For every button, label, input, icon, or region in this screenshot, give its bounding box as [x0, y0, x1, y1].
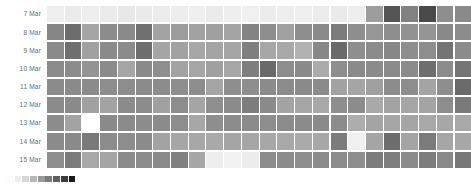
- heatmap-cell[interactable]: [118, 6, 135, 22]
- heatmap-cell[interactable]: [171, 24, 188, 40]
- heatmap-cell[interactable]: [153, 42, 170, 58]
- heatmap-cell[interactable]: [366, 42, 383, 58]
- heatmap-cell[interactable]: [206, 79, 223, 95]
- heatmap-cell[interactable]: [153, 24, 170, 40]
- heatmap-cell[interactable]: [65, 42, 82, 58]
- heatmap-cell[interactable]: [366, 61, 383, 77]
- heatmap-cell[interactable]: [82, 79, 99, 95]
- heatmap-cell[interactable]: [100, 42, 117, 58]
- heatmap-cell[interactable]: [65, 61, 82, 77]
- heatmap-cell[interactable]: [437, 24, 454, 40]
- heatmap-cell[interactable]: [419, 61, 436, 77]
- heatmap-cell[interactable]: [189, 152, 206, 168]
- heatmap-cell[interactable]: [260, 97, 277, 113]
- heatmap-cell[interactable]: [224, 24, 241, 40]
- heatmap-cell[interactable]: [171, 79, 188, 95]
- heatmap-cell[interactable]: [331, 152, 348, 168]
- heatmap-cell[interactable]: [171, 6, 188, 22]
- heatmap-cell[interactable]: [366, 152, 383, 168]
- heatmap-cell[interactable]: [65, 6, 82, 22]
- heatmap-cell[interactable]: [401, 152, 418, 168]
- heatmap-cell[interactable]: [136, 6, 153, 22]
- heatmap-cell[interactable]: [224, 61, 241, 77]
- heatmap-cell[interactable]: [348, 61, 365, 77]
- heatmap-cell[interactable]: [401, 61, 418, 77]
- heatmap-cell[interactable]: [153, 133, 170, 149]
- heatmap-cell[interactable]: [455, 24, 471, 40]
- heatmap-cell[interactable]: [189, 61, 206, 77]
- heatmap-cell[interactable]: [277, 61, 294, 77]
- heatmap-cell[interactable]: [277, 6, 294, 22]
- heatmap-cell[interactable]: [242, 6, 259, 22]
- heatmap-cell[interactable]: [331, 24, 348, 40]
- heatmap-cell[interactable]: [419, 152, 436, 168]
- heatmap-cell[interactable]: [189, 97, 206, 113]
- heatmap-cell[interactable]: [384, 133, 401, 149]
- heatmap-cell[interactable]: [277, 97, 294, 113]
- heatmap-cell[interactable]: [277, 115, 294, 131]
- heatmap-cell[interactable]: [100, 133, 117, 149]
- heatmap-cell[interactable]: [118, 24, 135, 40]
- heatmap-cell[interactable]: [242, 61, 259, 77]
- heatmap-cell[interactable]: [331, 42, 348, 58]
- heatmap-cell[interactable]: [366, 24, 383, 40]
- heatmap-cell[interactable]: [455, 152, 471, 168]
- heatmap-cell[interactable]: [419, 115, 436, 131]
- heatmap-cell[interactable]: [401, 97, 418, 113]
- heatmap-cell[interactable]: [100, 79, 117, 95]
- heatmap-cell[interactable]: [82, 42, 99, 58]
- heatmap-cell[interactable]: [47, 115, 64, 131]
- heatmap-cell[interactable]: [277, 152, 294, 168]
- heatmap-cell[interactable]: [82, 97, 99, 113]
- heatmap-cell[interactable]: [260, 61, 277, 77]
- heatmap-cell[interactable]: [455, 133, 471, 149]
- heatmap-cell[interactable]: [295, 115, 312, 131]
- heatmap-cell[interactable]: [455, 79, 471, 95]
- heatmap-cell[interactable]: [401, 79, 418, 95]
- heatmap-cell[interactable]: [401, 42, 418, 58]
- heatmap-cell[interactable]: [277, 42, 294, 58]
- heatmap-cell[interactable]: [206, 42, 223, 58]
- heatmap-cell[interactable]: [100, 6, 117, 22]
- heatmap-cell[interactable]: [419, 97, 436, 113]
- heatmap-cell[interactable]: [65, 152, 82, 168]
- heatmap-cell[interactable]: [384, 24, 401, 40]
- heatmap-cell[interactable]: [260, 115, 277, 131]
- heatmap-cell[interactable]: [136, 61, 153, 77]
- heatmap-cell[interactable]: [100, 61, 117, 77]
- heatmap-cell[interactable]: [295, 97, 312, 113]
- heatmap-cell[interactable]: [224, 115, 241, 131]
- heatmap-cell[interactable]: [331, 6, 348, 22]
- heatmap-cell[interactable]: [242, 115, 259, 131]
- heatmap-cell[interactable]: [65, 133, 82, 149]
- heatmap-cell[interactable]: [100, 24, 117, 40]
- heatmap-cell[interactable]: [455, 6, 471, 22]
- heatmap-cell[interactable]: [153, 6, 170, 22]
- heatmap-cell[interactable]: [455, 61, 471, 77]
- heatmap-cell[interactable]: [331, 115, 348, 131]
- heatmap-cell[interactable]: [419, 79, 436, 95]
- heatmap-cell[interactable]: [277, 24, 294, 40]
- heatmap-cell[interactable]: [260, 24, 277, 40]
- heatmap-cell[interactable]: [47, 24, 64, 40]
- heatmap-cell[interactable]: [47, 133, 64, 149]
- heatmap-cell[interactable]: [348, 97, 365, 113]
- heatmap-cell[interactable]: [242, 97, 259, 113]
- heatmap-cell[interactable]: [348, 6, 365, 22]
- heatmap-cell[interactable]: [118, 115, 135, 131]
- heatmap-cell[interactable]: [136, 133, 153, 149]
- heatmap-cell[interactable]: [401, 24, 418, 40]
- heatmap-cell[interactable]: [189, 6, 206, 22]
- heatmap-cell[interactable]: [313, 115, 330, 131]
- heatmap-cell[interactable]: [437, 42, 454, 58]
- heatmap-cell[interactable]: [206, 115, 223, 131]
- heatmap-cell[interactable]: [277, 133, 294, 149]
- heatmap-cell[interactable]: [437, 79, 454, 95]
- heatmap-cell[interactable]: [65, 97, 82, 113]
- heatmap-cell[interactable]: [242, 24, 259, 40]
- heatmap-cell[interactable]: [366, 115, 383, 131]
- heatmap-cell[interactable]: [348, 42, 365, 58]
- heatmap-cell[interactable]: [260, 152, 277, 168]
- heatmap-cell[interactable]: [295, 79, 312, 95]
- heatmap-cell[interactable]: [189, 115, 206, 131]
